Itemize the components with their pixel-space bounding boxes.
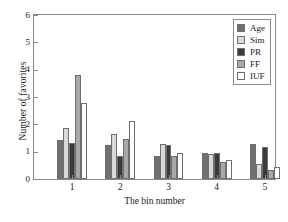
x-tick-label: 3 <box>154 182 184 192</box>
y-tick-mark <box>34 152 38 153</box>
legend-label: PR <box>250 48 261 57</box>
legend-swatch-age <box>237 24 245 32</box>
y-tick-label: 5 <box>11 38 30 47</box>
legend-item-ff: FF <box>237 58 265 70</box>
x-tick-label: 1 <box>57 182 87 192</box>
bar-iuf-bin-3 <box>177 153 183 179</box>
bar-chart-figure: Number of favorites 0123456 AgeSimPRFFIU… <box>0 0 288 222</box>
plot-area: 0123456 AgeSimPRFFIUF <box>33 14 276 180</box>
legend-item-iuf: IUF <box>237 70 265 82</box>
y-tick-label: 0 <box>11 175 30 184</box>
y-tick-label: 1 <box>11 147 30 156</box>
x-tick-label: 2 <box>105 182 135 192</box>
bar-iuf-bin-4 <box>226 160 232 179</box>
legend-swatch-iuf <box>237 72 245 80</box>
x-tick-mark <box>265 175 266 179</box>
y-tick-label: 4 <box>11 65 30 74</box>
legend-item-age: Age <box>237 22 265 34</box>
legend-swatch-sim <box>237 36 245 44</box>
x-tick-mark <box>120 175 121 179</box>
legend-item-sim: Sim <box>237 34 265 46</box>
chart-legend: AgeSimPRFFIUF <box>233 19 271 85</box>
y-tick-mark <box>34 179 38 180</box>
x-tick-mark <box>217 175 218 179</box>
legend-swatch-pr <box>237 48 245 56</box>
legend-item-pr: PR <box>237 46 265 58</box>
y-tick-mark <box>34 42 38 43</box>
x-tick-label: 5 <box>250 182 280 192</box>
y-tick-mark <box>34 124 38 125</box>
legend-label: Age <box>250 24 265 33</box>
x-tick-mark <box>72 175 73 179</box>
bar-iuf-bin-1 <box>81 103 87 179</box>
bar-iuf-bin-5 <box>274 167 280 179</box>
x-tick-mark <box>169 175 170 179</box>
y-tick-label: 6 <box>11 11 30 20</box>
x-tick-label: 4 <box>202 182 232 192</box>
legend-label: IUF <box>250 72 265 81</box>
bar-iuf-bin-2 <box>129 121 135 179</box>
legend-label: FF <box>250 60 260 69</box>
y-tick-mark <box>34 97 38 98</box>
legend-swatch-ff <box>237 60 245 68</box>
legend-label: Sim <box>250 36 265 45</box>
y-tick-label: 2 <box>11 120 30 129</box>
x-axis-label: The bin number <box>33 196 276 206</box>
y-tick-mark <box>34 70 38 71</box>
y-tick-label: 3 <box>11 93 30 102</box>
y-tick-mark <box>34 15 38 16</box>
